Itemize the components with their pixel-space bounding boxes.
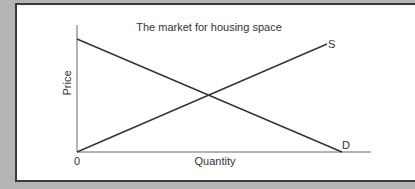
origin-label: 0 (74, 155, 80, 167)
y-axis-label: Price (61, 70, 73, 95)
supply-curve (77, 44, 327, 152)
demand-label: D (342, 139, 350, 151)
supply-label: S (328, 38, 335, 50)
chart-title: The market for housing space (136, 21, 282, 33)
x-axis-label: Quantity (195, 155, 236, 167)
